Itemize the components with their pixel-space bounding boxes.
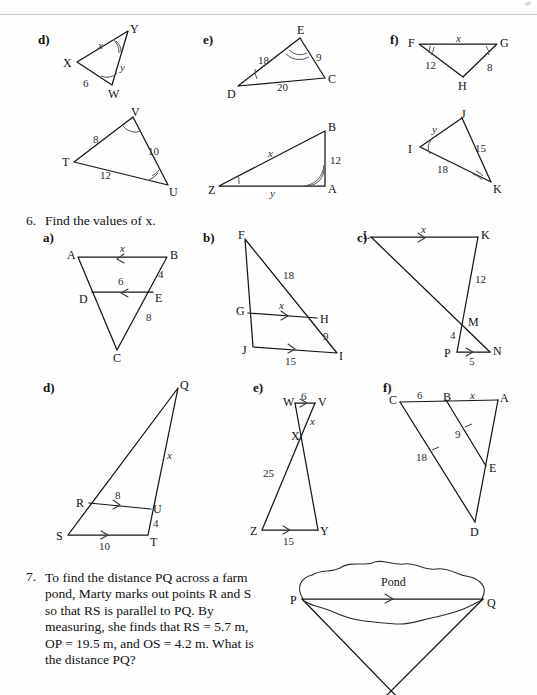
pond-label: Pond — [381, 576, 406, 588]
vertex-label-P: P — [290, 594, 297, 606]
segment-Q-to-O — [382, 599, 483, 695]
worksheet-page: d) X Y W x y 6 T V U 8 10 12 e) D E — [0, 0, 537, 695]
segment-P-to-O — [302, 599, 400, 695]
pond-outline-bottom — [304, 600, 482, 624]
pond-diagram-svg — [0, 0, 537, 695]
vertex-label-Q: Q — [487, 597, 496, 609]
